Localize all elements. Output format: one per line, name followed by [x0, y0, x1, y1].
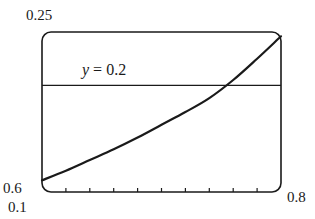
reference-line-equation: = 0.2	[89, 61, 126, 78]
y-max-label: 0.25	[26, 8, 52, 23]
y-min-label: 0.1	[8, 200, 27, 215]
reference-line-label: y = 0.2	[82, 62, 126, 77]
plot-frame	[42, 32, 281, 192]
x-max-label: 0.8	[287, 190, 306, 205]
plot-area	[0, 0, 315, 219]
data-curve	[42, 36, 281, 180]
x-min-label: 0.6	[3, 181, 22, 196]
